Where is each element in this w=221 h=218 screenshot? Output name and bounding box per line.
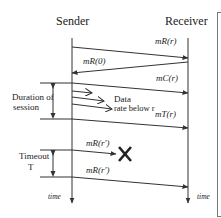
data-arrow-3 xyxy=(72,104,112,109)
timeout-label-line1: Timeout xyxy=(19,152,49,161)
data-arrow-2 xyxy=(72,97,104,101)
duration-label-line2: session xyxy=(13,103,39,112)
message-arrow-mT-r xyxy=(72,119,188,128)
duration-label-line1: Duration of xyxy=(12,93,54,102)
data-arrow-1 xyxy=(72,91,92,93)
timeout-label-line2: T xyxy=(28,163,34,172)
message-label-mR-r: mR(r) xyxy=(155,37,177,46)
message-label-mR-r-prime-1: mR(r′) xyxy=(86,139,109,148)
message-label-mC-r: mC(r) xyxy=(156,74,178,83)
figure-frame-edge xyxy=(217,12,221,217)
data-note-line2: rate below r xyxy=(114,104,155,113)
message-label-mT-r: mT(r) xyxy=(155,110,176,119)
message-label-mR-0: mR(0) xyxy=(83,57,106,66)
message-arrow-mC-r xyxy=(72,83,188,93)
sender-time-label: time xyxy=(48,193,61,201)
message-arrow-mR-r-prime-lost xyxy=(72,150,116,154)
message-arrow-mR-r-prime xyxy=(72,177,188,187)
receiver-header: Receiver xyxy=(165,15,208,27)
receiver-time-label: time xyxy=(197,193,210,201)
message-label-mR-r-prime-2: mR(r′) xyxy=(86,166,109,175)
lost-message-x-icon xyxy=(119,147,131,161)
sender-header: Sender xyxy=(56,15,89,27)
